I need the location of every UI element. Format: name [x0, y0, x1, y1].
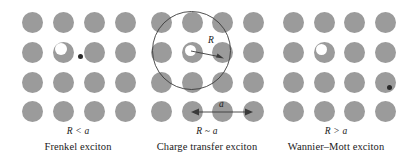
- panel-frenkel-exciton: R < a Frenkel exciton: [16, 0, 140, 161]
- atom: [115, 72, 136, 93]
- atom: [314, 12, 335, 33]
- relation-text: R > a: [325, 126, 348, 136]
- atom: [84, 72, 105, 93]
- panel-name-frenkel: Frenkel exciton: [16, 140, 140, 153]
- panel-name-wannier-mott: Wannier–Mott exciton: [274, 140, 398, 153]
- relation-text: R ~ a: [196, 126, 217, 136]
- atom: [344, 72, 365, 93]
- electron-marker: [387, 85, 392, 90]
- atom: [344, 101, 365, 122]
- panel-relation-wannier-mott: R > a: [274, 126, 398, 138]
- atom: [283, 12, 304, 33]
- atom: [283, 72, 304, 93]
- atom: [22, 72, 43, 93]
- hole-marker: [316, 44, 327, 55]
- atom: [115, 12, 136, 33]
- atom: [22, 101, 43, 122]
- atom: [344, 42, 365, 63]
- panel-name-charge-transfer: Charge transfer exciton: [146, 140, 268, 153]
- atom: [22, 12, 43, 33]
- exciton-figure: R < a Frenkel exciton: [0, 0, 399, 161]
- atom: [283, 101, 304, 122]
- radius-label: R: [208, 35, 214, 45]
- relation-text: R < a: [67, 126, 90, 136]
- exciton-orbit-diagram: [146, 0, 268, 130]
- panel-relation-frenkel: R < a: [16, 126, 140, 138]
- atom: [84, 101, 105, 122]
- panel-wannier-mott-exciton: R > a Wannier–Mott exciton: [274, 0, 398, 161]
- atom: [53, 12, 74, 33]
- hole-marker: [55, 43, 67, 55]
- atom: [375, 12, 396, 33]
- atom-with-electron: [375, 72, 396, 93]
- atom: [283, 42, 304, 63]
- atom: [22, 42, 43, 63]
- electron-marker: [78, 54, 83, 59]
- atom: [53, 101, 74, 122]
- atom: [314, 101, 335, 122]
- radius-arrowhead-icon: [216, 54, 224, 59]
- atom: [84, 42, 105, 63]
- atom: [375, 42, 396, 63]
- orbit-circle-icon: [153, 12, 231, 90]
- lattice-constant-arrowhead-left-icon: [191, 109, 199, 116]
- radius-arrow-line: [191, 51, 221, 57]
- atom: [84, 12, 105, 33]
- atom: [115, 42, 136, 63]
- panel-relation-charge-transfer: R ~ a: [146, 126, 268, 138]
- atom: [53, 72, 74, 93]
- atom: [375, 101, 396, 122]
- panel-charge-transfer-exciton: R a R ~ a Charge transfer exciton: [146, 0, 268, 161]
- atom: [115, 101, 136, 122]
- lattice-constant-arrowhead-right-icon: [245, 109, 253, 116]
- atom: [314, 72, 335, 93]
- lattice-constant-label: a: [219, 99, 224, 109]
- atom: [344, 12, 365, 33]
